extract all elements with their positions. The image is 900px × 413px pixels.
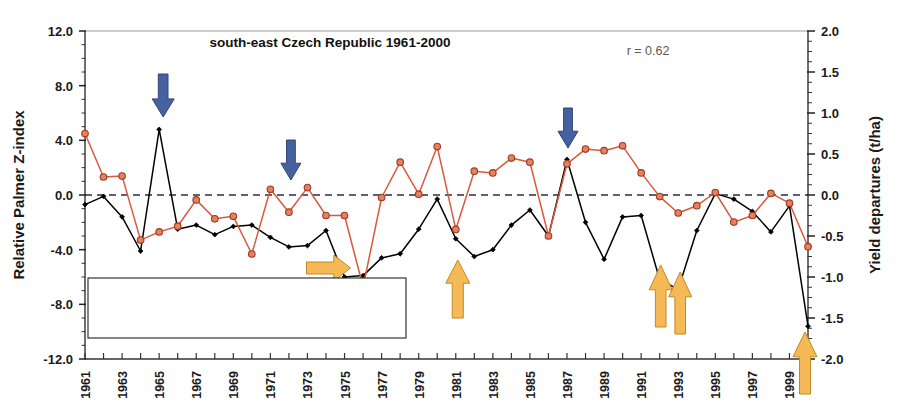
x-axis-ticks [85,353,808,359]
data-point [157,127,162,132]
data-point [193,197,200,204]
right-axis-tick-label: 1.5 [821,65,839,80]
x-axis-tick-label: 1985 [524,371,538,399]
left-axis-tick-label: -8.0 [51,297,73,312]
data-point [249,251,256,258]
left-axis-tick-label: 8.0 [55,79,73,94]
x-axis-tick-label: 1981 [450,371,464,399]
arrow-down-1987-icon [558,108,578,148]
x-axis-tick-label: 1999 [783,371,797,399]
data-point [453,226,460,233]
x-axis-tick-label: 1961 [79,371,93,399]
x-axis-tick-label: 1989 [598,371,612,399]
arrow-up-1981-icon [446,260,470,318]
x-axis-tick-label: 1965 [153,371,167,399]
data-point [119,173,126,180]
data-point [212,216,219,223]
right-axis-tick-label: 2.0 [821,24,839,39]
left-axis-tick-label: -12.0 [43,352,73,367]
left-axis-tick-label: 12.0 [48,24,73,39]
data-point [619,143,626,150]
x-axis-tick-label: 1969 [227,371,241,399]
data-point [675,210,682,217]
data-point [230,213,237,220]
x-axis-tick-label: 1997 [746,371,760,399]
right-axis-tick-label: 1.0 [821,106,839,121]
data-point [694,202,701,209]
left-axis-tick-label: -4.0 [51,243,73,258]
x-axis-tick-label: 1987 [561,371,575,399]
correlation-annotation: r = 0.62 [627,44,670,58]
left-axis-ticks: 12.08.04.00.0-4.0-8.0-12.0 [43,24,86,367]
data-point [137,237,144,244]
x-axis-tick-label: 1977 [376,371,390,399]
data-point [602,257,607,262]
x-axis-tick-label: 1963 [116,371,130,399]
left-axis-tick-label: 0.0 [55,188,73,203]
data-point [749,212,756,219]
x-axis-tick-label: 1975 [339,371,353,399]
data-point [156,229,163,236]
left-axis-title: Relative Palmer Z-index [10,110,27,280]
series-yield-departures [82,130,812,290]
data-point [286,209,293,216]
legend [88,278,406,338]
x-axis-tick-label: 1995 [709,371,723,399]
data-point [712,189,719,196]
data-point [601,147,608,154]
series-line [85,134,808,287]
x-axis-tick-label: 1971 [264,371,278,399]
x-axis-tick-label: 1967 [190,371,204,399]
data-point [415,191,422,198]
data-point [768,190,775,197]
x-axis-tick-label: 1991 [635,371,649,399]
x-axis-tick-label: 1993 [672,371,686,399]
data-point [231,224,236,229]
data-point [397,159,404,166]
right-axis-ticks: 2.01.51.00.50.0-0.5-1.0-1.5-2.0 [807,24,843,367]
arrow-up-1993-icon [669,272,692,334]
data-point [471,168,478,175]
x-axis-tick-label: 1979 [413,371,427,399]
data-point [304,184,311,191]
x-axis-tick-label: 1973 [301,371,315,399]
data-point [638,170,645,177]
data-point [620,214,625,219]
data-point [545,233,552,240]
data-point [174,223,181,230]
data-point [323,212,330,219]
data-point [527,159,534,166]
data-point [82,130,89,137]
legend-box [88,278,406,338]
data-point [564,161,571,168]
data-point [731,219,738,226]
chart-canvas: 12.08.04.00.0-4.0-8.0-12.02.01.51.00.50.… [0,0,900,413]
arrow-down-1965-icon [152,74,174,117]
data-point [583,220,588,225]
data-point [490,170,497,177]
data-point [267,186,274,193]
left-axis-tick-label: 4.0 [55,133,73,148]
data-point [805,243,812,250]
right-axis-tick-label: 0.5 [821,147,839,162]
data-point [83,202,88,207]
right-axis-tick-label: -2.0 [821,352,843,367]
x-axis-tick-label: 1983 [487,371,501,399]
data-point [378,194,385,201]
chart-figure: 12.08.04.00.0-4.0-8.0-12.02.01.51.00.50.… [0,0,900,413]
right-axis-tick-label: -1.5 [821,311,843,326]
right-axis-title: Yield departures (t/ha) [866,116,883,274]
right-axis-tick-label: 0.0 [821,188,839,203]
right-axis-tick-label: -1.0 [821,270,843,285]
data-point [434,143,441,150]
data-point [656,193,663,200]
data-point [341,212,348,219]
arrow-down-1972-icon [281,140,301,180]
data-point [100,174,107,181]
chart-title: south-east Czech Republic 1961-2000 [210,35,451,50]
data-point [639,213,644,218]
x-axis-tick-labels: 1961196319651967196919711973197519771979… [79,371,797,399]
data-point [508,155,515,162]
data-point [786,200,793,207]
right-axis-tick-label: -0.5 [821,229,843,244]
